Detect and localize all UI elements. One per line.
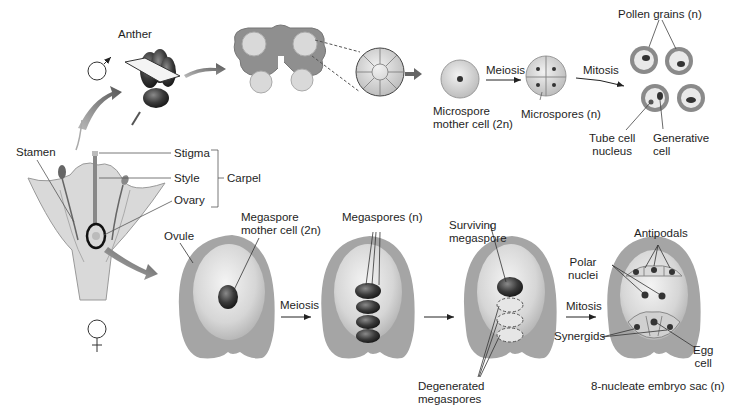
pollen-grains bbox=[626, 20, 705, 130]
ovule-stage-2 bbox=[321, 232, 414, 358]
label-degenerated-megaspores: Degenerated megaspores bbox=[418, 380, 485, 406]
label-ovule: Ovule bbox=[164, 230, 194, 243]
microspore-mother-cell bbox=[441, 60, 479, 98]
label-style: Style bbox=[174, 172, 200, 185]
microspore-tetrad bbox=[526, 56, 566, 100]
label-carpel: Carpel bbox=[227, 172, 261, 185]
ovule-stage-3 bbox=[464, 224, 557, 377]
label-ovary: Ovary bbox=[174, 194, 205, 207]
label-megaspores: Megaspores (n) bbox=[342, 211, 423, 224]
label-microspore-mother-cell: Microspore mother cell (2n) bbox=[433, 105, 513, 131]
label-microspores: Microspores (n) bbox=[521, 108, 601, 121]
male-symbol-icon bbox=[88, 57, 111, 80]
label-mitosis-female: Mitosis bbox=[566, 300, 602, 313]
label-anther: Anther bbox=[118, 28, 152, 41]
label-tube-cell-nucleus: Tube cell nucleus bbox=[589, 132, 635, 158]
label-synergids: Synergids bbox=[554, 330, 605, 343]
label-stamen: Stamen bbox=[16, 146, 56, 159]
label-meiosis-male: Meiosis bbox=[486, 64, 525, 77]
label-embryo-sac: 8-nucleate embryo sac (n) bbox=[591, 380, 725, 393]
label-pollen-grains: Pollen grains (n) bbox=[618, 8, 702, 21]
female-symbol-icon bbox=[88, 320, 106, 352]
sporangium-detail bbox=[356, 48, 404, 96]
label-megaspore-mother-cell: Megaspore mother cell (2n) bbox=[241, 211, 321, 237]
label-polar-nuclei: Polar nuclei bbox=[568, 256, 598, 282]
label-mitosis-male: Mitosis bbox=[583, 64, 619, 77]
embryo-sac bbox=[602, 236, 701, 358]
label-stigma: Stigma bbox=[174, 147, 210, 160]
label-meiosis-female: Meiosis bbox=[280, 299, 319, 312]
label-generative-cell: Generative cell bbox=[653, 132, 709, 158]
label-surviving-megaspore: Surviving megaspore bbox=[449, 219, 507, 245]
label-egg-cell: Egg cell bbox=[693, 344, 713, 370]
label-antipodals: Antipodals bbox=[634, 227, 688, 240]
ovule-stage-1 bbox=[179, 235, 275, 358]
flower-to-anther-arrow bbox=[78, 86, 122, 130]
anther-cross-section bbox=[234, 25, 360, 93]
anther-illustration bbox=[125, 49, 180, 125]
